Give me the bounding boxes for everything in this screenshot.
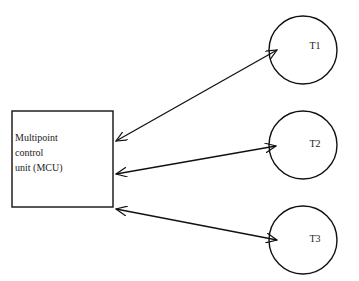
- mcu-label-line3: unit (MCU): [15, 162, 63, 174]
- terminal-t2-label: T2: [309, 138, 320, 149]
- terminal-t1: T1: [269, 16, 337, 84]
- arrow-mcu-t1: [116, 50, 277, 141]
- mcu-label-line1: Multipoint: [15, 132, 58, 143]
- arrow-mcu-t3: [116, 209, 277, 240]
- mcu-box: Multipoint control unit (MCU): [12, 111, 113, 207]
- terminal-t2: T2: [269, 111, 337, 179]
- terminal-t3: T3: [269, 206, 337, 274]
- terminal-t3-label: T3: [309, 233, 320, 244]
- arrow-mcu-t2: [116, 146, 276, 174]
- mcu-label-line2: control: [15, 147, 44, 158]
- mcu-diagram: Multipoint control unit (MCU) T1 T2 T3: [0, 0, 359, 281]
- terminal-t1-label: T1: [309, 40, 320, 51]
